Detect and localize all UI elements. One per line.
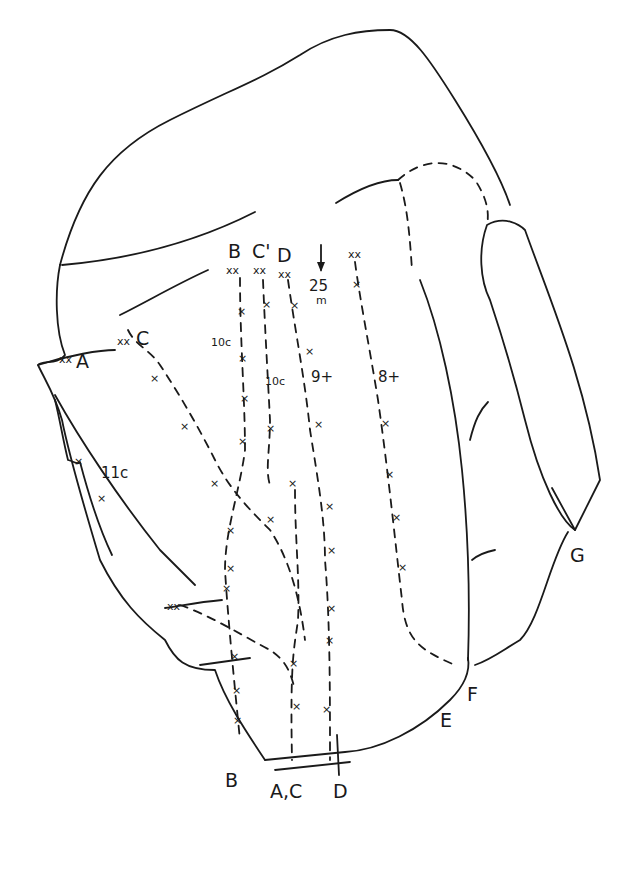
rappel-unit: m (316, 294, 327, 307)
grade-route-d: 9+ (311, 368, 333, 386)
topo-diagram: B C' D xx xx xx xx 25 m xx A xx C 11c 10… (0, 0, 631, 872)
svg-text:×: × (97, 492, 106, 505)
label-e: E (440, 709, 452, 731)
right-pillar (481, 221, 600, 530)
upper-ledge (62, 212, 255, 265)
label-a: A (76, 350, 89, 372)
svg-text:×: × (226, 524, 235, 537)
label-d-bottom: D (333, 780, 348, 802)
right-arch-dash (398, 163, 488, 225)
b-ledge (200, 658, 250, 665)
svg-text:×: × (226, 562, 235, 575)
svg-text:×: × (150, 372, 159, 385)
svg-text:×: × (74, 455, 83, 468)
label-b-bottom: B (225, 769, 238, 791)
label-route-c-prime-top: C' (252, 240, 271, 262)
svg-text:×: × (266, 513, 275, 526)
svg-text:×: × (240, 392, 249, 405)
svg-text:×: × (327, 602, 336, 615)
svg-text:×: × (237, 305, 246, 318)
grade-11c: 11c (101, 464, 128, 482)
svg-text:×: × (233, 714, 242, 727)
svg-text:×: × (292, 700, 301, 713)
label-route-d-top: D (277, 244, 292, 266)
anchor-c-prime: xx (253, 264, 267, 277)
svg-text:×: × (352, 278, 361, 291)
anchor-8plus: xx (348, 248, 362, 261)
anchor-d: xx (278, 268, 292, 281)
anchor-c: xx (117, 335, 131, 348)
label-g: G (570, 544, 585, 566)
route-8plus (355, 262, 455, 665)
route-dc-branch (291, 490, 298, 760)
label-c: C (136, 327, 149, 349)
svg-text:×: × (322, 703, 331, 716)
svg-text:×: × (314, 418, 323, 431)
svg-text:×: × (238, 352, 247, 365)
grade-route-8plus: 8+ (378, 368, 400, 386)
right-corner (420, 280, 469, 660)
svg-text:×: × (290, 299, 299, 312)
svg-text:×: × (222, 582, 231, 595)
svg-text:×: × (180, 420, 189, 433)
grade-route-b: 10c (211, 336, 231, 349)
label-f: F (467, 683, 478, 705)
label-ac-bottom: A,C (270, 780, 302, 802)
ledge-c (120, 270, 208, 315)
svg-text:×: × (289, 657, 298, 670)
svg-text:×: × (210, 477, 219, 490)
rock-outline-top (60, 30, 510, 265)
svg-text:×: × (381, 417, 390, 430)
svg-text:×: × (266, 422, 275, 435)
svg-text:×: × (232, 684, 241, 697)
label-route-b-top: B (228, 240, 241, 262)
svg-text:×: × (238, 435, 247, 448)
f-line2 (472, 550, 495, 560)
route-11c-line (55, 395, 195, 585)
svg-text:×: × (385, 468, 394, 481)
svg-text:×: × (327, 544, 336, 557)
svg-text:×: × (262, 298, 271, 311)
anchor-b: xx (226, 264, 240, 277)
rappel-arrowhead (317, 262, 325, 272)
f-line (470, 402, 488, 440)
route-lower-cross (180, 605, 295, 690)
svg-text:×: × (325, 634, 334, 647)
right-arch (336, 180, 398, 203)
svg-text:×: × (398, 561, 407, 574)
anchor-lower-left: xx (167, 600, 181, 613)
svg-text:×: × (230, 650, 239, 663)
svg-text:×: × (288, 477, 297, 490)
anchor-a: xx (59, 353, 73, 366)
rappel-length: 25 (309, 277, 328, 295)
pillar-crack (552, 488, 575, 530)
svg-text:×: × (392, 511, 401, 524)
svg-text:×: × (305, 345, 314, 358)
grade-route-c-prime: 10c (265, 375, 285, 388)
right-crack-dash (400, 183, 412, 270)
svg-text:×: × (325, 500, 334, 513)
d-crack (337, 735, 339, 775)
